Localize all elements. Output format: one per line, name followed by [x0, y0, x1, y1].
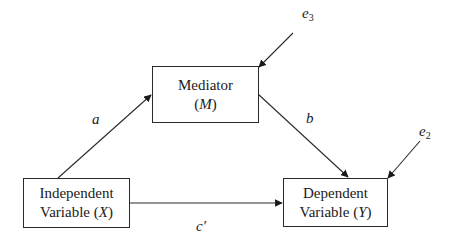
independent-variable-node: Independent Variable (X): [23, 178, 130, 228]
path-b-arrow: [258, 94, 348, 177]
mediator-symbol: M: [199, 96, 212, 112]
error-label-e3: e3: [302, 6, 314, 23]
independent-label: Independent: [39, 184, 113, 203]
mediator-symbol-line: (M): [194, 95, 217, 114]
dependent-label: Dependent: [303, 184, 368, 203]
path-label-c-prime: c′: [196, 219, 206, 234]
path-label-b: b: [306, 111, 314, 126]
path-a-arrow: [58, 95, 151, 178]
error-label-e2: e2: [419, 124, 431, 141]
error-e2-arrow: [388, 141, 420, 178]
dependent-symbol: Y: [358, 204, 366, 220]
error-e3-arrow: [259, 33, 293, 67]
dependent-variable-node: Dependent Variable (Y): [283, 178, 388, 227]
independent-symbol: X: [99, 204, 108, 220]
independent-symbol-line: Variable (X): [40, 203, 113, 222]
path-label-a: a: [92, 112, 100, 127]
mediator-node: Mediator (M): [152, 66, 259, 123]
mediator-label: Mediator: [178, 76, 233, 95]
dependent-symbol-line: Variable (Y): [299, 203, 371, 222]
